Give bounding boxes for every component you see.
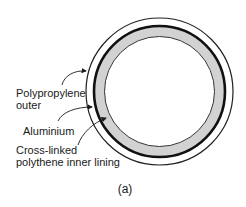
pex-inner-lining-band	[100, 32, 220, 152]
label-pex-line1: Cross-linked	[16, 144, 77, 156]
polypropylene-outer-ring	[86, 18, 233, 165]
pipe-cross-section-diagram: Polypropylene outer Aluminium Cross-link…	[0, 0, 246, 207]
label-polypropylene-line2: outer	[16, 99, 41, 111]
label-polypropylene-line1: Polypropylene	[16, 87, 86, 99]
inner-bore-line	[105, 37, 215, 147]
label-pex-line2: polythene inner lining	[16, 156, 120, 168]
figure-caption: (a)	[118, 182, 133, 196]
aluminium-ring	[94, 26, 225, 157]
label-aluminium: Aluminium	[23, 125, 74, 137]
leader-arrow-aluminium	[58, 107, 92, 121]
leader-arrow-polypropylene	[62, 71, 86, 85]
